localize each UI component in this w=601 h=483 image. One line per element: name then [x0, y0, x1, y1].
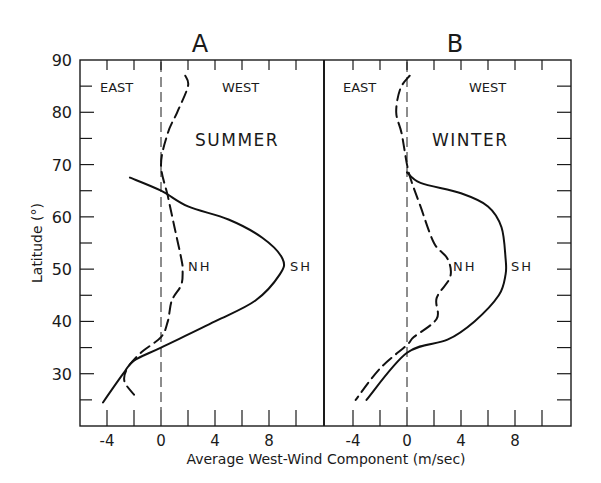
y-axis-title: Latitude (°)	[29, 203, 45, 283]
y-tick-label: 50	[52, 260, 72, 279]
axis-ticks	[80, 60, 571, 426]
wind-latitude-chart: A B EAST WEST EAST WEST SUMMER WINTER NH…	[0, 0, 601, 483]
y-tick-label: 40	[52, 312, 72, 331]
panel-b-nh-label: NH	[453, 259, 477, 274]
panel-a-west-label: WEST	[222, 80, 259, 95]
x-tick-label: 4	[210, 432, 220, 450]
panel-a-east-label: EAST	[100, 80, 133, 95]
y-tick-label: 70	[52, 156, 72, 175]
x-tick-label: -4	[100, 432, 115, 450]
panel-b-title: B	[447, 30, 463, 58]
y-tick-label: 60	[52, 208, 72, 227]
x-tick-label: 4	[456, 432, 466, 450]
y-tick-labels: 90807060504030	[52, 51, 72, 384]
x-tick-label: 0	[156, 432, 166, 450]
plot-frame	[80, 60, 571, 426]
panel-a-nh-curve	[124, 76, 188, 395]
panel-b-sh-label: SH	[511, 259, 533, 274]
x-axis-title: Average West-Wind Component (m/sec)	[186, 451, 465, 467]
y-tick-label: 30	[52, 365, 72, 384]
x-tick-label: 8	[264, 432, 274, 450]
panel-b-east-label: EAST	[343, 80, 376, 95]
x-tick-labels: -4048-4048	[100, 432, 520, 450]
panel-b-season-label: WINTER	[432, 130, 508, 150]
curves	[103, 76, 506, 403]
x-tick-label: 0	[402, 432, 412, 450]
panel-a-nh-label: NH	[188, 259, 212, 274]
panel-b-sh-curve	[367, 172, 507, 399]
panel-b-west-label: WEST	[469, 80, 506, 95]
x-tick-label: -4	[346, 432, 361, 450]
panel-a-sh-label: SH	[290, 259, 312, 274]
x-tick-label: 8	[510, 432, 520, 450]
panel-a-sh-curve	[103, 178, 284, 403]
panel-a-title: A	[192, 30, 209, 58]
y-tick-label: 80	[52, 103, 72, 122]
panel-a-season-label: SUMMER	[195, 130, 279, 150]
panel-b-nh-curve	[356, 76, 451, 400]
y-tick-label: 90	[52, 51, 72, 70]
